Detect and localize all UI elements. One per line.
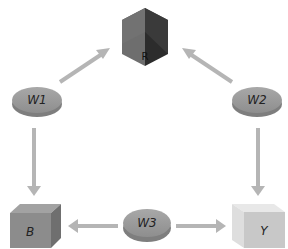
node-w2-disc: W2 bbox=[232, 87, 282, 117]
node-w1-label: W1 bbox=[27, 93, 47, 107]
arrow-w2-to-r bbox=[182, 48, 232, 82]
arrow-w1-to-b bbox=[27, 128, 41, 196]
node-w1-disc: W1 bbox=[12, 87, 62, 117]
node-r-label: R bbox=[142, 51, 149, 62]
node-w3-disc: W3 bbox=[123, 209, 171, 242]
arrow-w2-to-y bbox=[251, 128, 265, 196]
node-b-label: B bbox=[26, 225, 34, 239]
node-y-cube: Y bbox=[232, 204, 285, 248]
node-r-cube: R bbox=[122, 8, 168, 66]
arrow-w3-to-y bbox=[176, 219, 226, 233]
node-w2-label: W2 bbox=[247, 93, 267, 107]
node-w3-label: W3 bbox=[137, 216, 157, 230]
arrow-w3-to-b bbox=[68, 219, 118, 233]
arrow-w1-to-r bbox=[60, 48, 110, 82]
node-b-cube: B bbox=[10, 204, 61, 248]
diagram-canvas: R W1 W2 W3 B Y bbox=[0, 0, 288, 249]
